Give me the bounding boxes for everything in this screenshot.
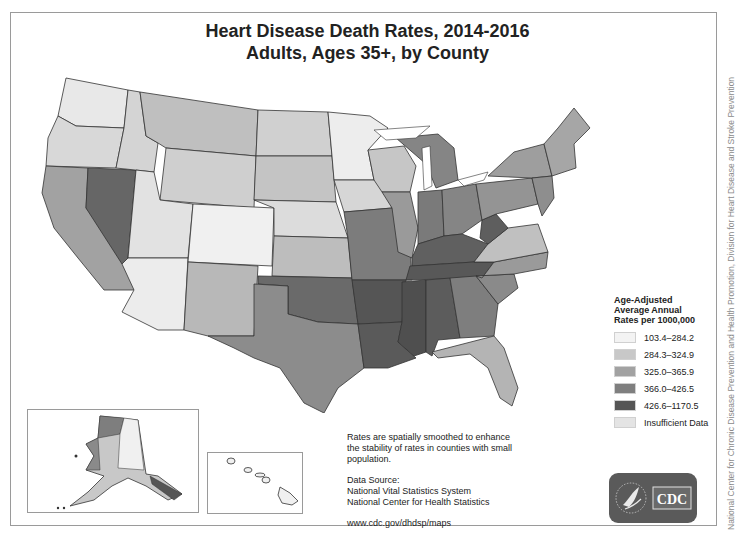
lake-michigan: [422, 146, 432, 190]
us-choropleth-map: [18, 68, 608, 413]
region-arizona: [122, 258, 188, 330]
legend-item: 426.6–1170.5: [614, 397, 708, 414]
legend-item: 103.4–284.2: [614, 329, 708, 346]
smoothing-note: Rates are spatially smoothed to enhance …: [347, 432, 512, 465]
hhs-eagle-icon: CDC: [609, 473, 697, 523]
title-line-1: Heart Disease Death Rates, 2014-2016: [0, 20, 735, 42]
legend-item: 284.3–324.9: [614, 346, 708, 363]
region-florida: [432, 336, 518, 406]
legend-swatch: [614, 349, 636, 360]
legend-item: 366.0–426.5: [614, 380, 708, 397]
region-kansas: [272, 236, 352, 278]
region-south-dakota: [254, 156, 336, 202]
region-washington: [58, 78, 128, 128]
cdc-logo: CDC: [609, 473, 697, 523]
region-new-mexico: [184, 262, 258, 336]
region-wyoming: [160, 148, 256, 208]
source-url[interactable]: www.cdc.gov/dhdsp/maps: [347, 518, 512, 529]
alaska-map: [28, 410, 198, 512]
side-credit: National Center for Chronic Disease Prev…: [726, 77, 736, 530]
hawaii-map: [208, 453, 302, 513]
region-pennsylvania: [476, 178, 538, 220]
legend-title: Age-Adjusted Average Annual Rates per 10…: [614, 295, 708, 325]
region-arkansas: [352, 280, 406, 324]
region-ohio: [442, 184, 482, 236]
legend-item: 325.0–365.9: [614, 363, 708, 380]
cdc-logo-text: CDC: [657, 492, 687, 507]
region-north-dakota: [256, 110, 332, 156]
legend-swatch: [614, 417, 636, 428]
region-mississippi: [398, 280, 426, 356]
legend-swatch: [614, 400, 636, 411]
map-title: Heart Disease Death Rates, 2014-2016 Adu…: [0, 20, 735, 64]
legend-swatch: [614, 332, 636, 343]
hawaii-inset: [207, 452, 303, 514]
region-new-york: [488, 144, 552, 178]
legend-swatch: [614, 366, 636, 377]
legend-swatch: [614, 383, 636, 394]
map-notes: Rates are spatially smoothed to enhance …: [347, 432, 512, 539]
legend-item: Insufficient Data: [614, 414, 708, 431]
region-new-england: [544, 108, 590, 176]
map-legend: Age-Adjusted Average Annual Rates per 10…: [614, 295, 708, 431]
region-indiana: [418, 190, 444, 244]
region-colorado: [188, 204, 274, 266]
data-source: Data Source: National Vital Statistics S…: [347, 475, 512, 508]
alaska-inset: [27, 409, 199, 513]
title-line-2: Adults, Ages 35+, by County: [0, 42, 735, 64]
